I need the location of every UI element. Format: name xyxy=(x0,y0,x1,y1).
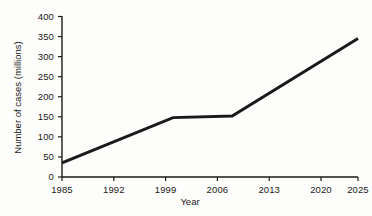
x-axis-tick-label: 2025 xyxy=(341,184,372,195)
x-axis-tick-label: 1992 xyxy=(97,184,131,195)
x-axis-tick-label: 2020 xyxy=(304,184,338,195)
x-axis-tick-label: 2013 xyxy=(252,184,286,195)
y-axis-tick-label: 400 xyxy=(28,11,54,22)
data-line-series-0 xyxy=(62,39,358,163)
x-axis-tick-label: 2006 xyxy=(200,184,234,195)
axes xyxy=(62,16,358,177)
x-axis-title: Year xyxy=(160,196,220,207)
y-axis-tick-label: 300 xyxy=(28,51,54,62)
x-axis-tick-label: 1999 xyxy=(149,184,183,195)
data-series-group xyxy=(62,39,358,163)
y-axis-tick-label: 50 xyxy=(28,151,54,162)
y-axis-tick-label: 100 xyxy=(28,131,54,142)
y-axis-tick-label: 0 xyxy=(28,171,54,182)
y-axis-tick-label: 250 xyxy=(28,71,54,82)
y-axis-tick-label: 200 xyxy=(28,91,54,102)
y-axis-tick-label: 350 xyxy=(28,31,54,42)
line-chart: 050100150200250300350400 198519921999200… xyxy=(0,0,372,216)
y-axis-tick-label: 150 xyxy=(28,111,54,122)
x-axis-tick-label: 1985 xyxy=(45,184,79,195)
y-axis-title: Number of cases (millions) xyxy=(12,28,23,168)
